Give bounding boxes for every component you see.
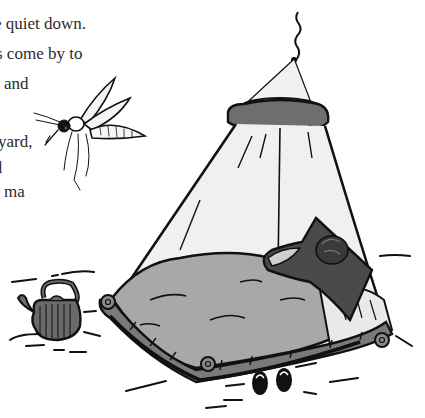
storybook-page: e quiet down. s come by to and yard, l m… (0, 0, 425, 418)
illustration (0, 0, 425, 418)
sandals-icon (252, 368, 292, 395)
mosquito-icon (34, 78, 145, 190)
kettle-icon (18, 281, 81, 340)
